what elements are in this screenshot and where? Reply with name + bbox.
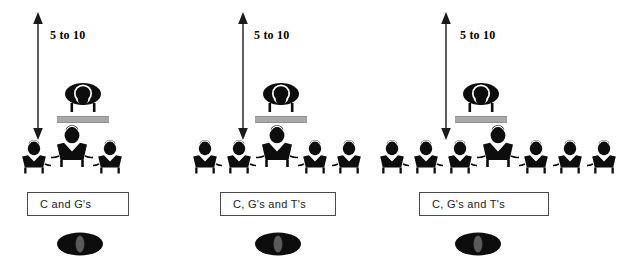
- gap-distance-label-2: 5 to 10: [254, 28, 289, 43]
- panel-caption-text-1: C and G's: [28, 198, 91, 210]
- presenter-figure-icon: [61, 82, 105, 116]
- ellipse-marker-icon: [56, 231, 104, 257]
- panel-caption-box-2: C, G's and T's: [220, 192, 336, 216]
- gap-distance-label-3: 5 to 10: [460, 28, 495, 43]
- diagram-panel-1: 5 to 10 C and G's: [0, 0, 206, 267]
- diagram-panel-3: 5 to 10 C, G's and T's: [412, 0, 618, 267]
- gap-distance-label-1: 5 to 10: [50, 28, 85, 43]
- presenter-figure-icon: [459, 82, 503, 116]
- ellipse-marker-icon: [454, 231, 502, 257]
- panel-caption-box-3: C, G's and T's: [419, 192, 549, 216]
- panel-caption-box-1: C and G's: [27, 192, 129, 216]
- seated-figures-row: [17, 128, 127, 174]
- panel-caption-text-2: C, G's and T's: [221, 198, 306, 210]
- seated-figures-row: [188, 128, 366, 174]
- double-headed-vertical-arrow-icon: [435, 12, 457, 140]
- double-headed-vertical-arrow-icon: [232, 12, 254, 140]
- double-headed-vertical-arrow-icon: [27, 12, 49, 140]
- seated-figures-row: [375, 128, 618, 174]
- diagram-canvas: 5 to 10 C and G's: [0, 0, 618, 267]
- ellipse-marker-icon: [254, 231, 302, 257]
- panel-caption-text-3: C, G's and T's: [420, 198, 505, 210]
- presenter-figure-icon: [259, 82, 303, 116]
